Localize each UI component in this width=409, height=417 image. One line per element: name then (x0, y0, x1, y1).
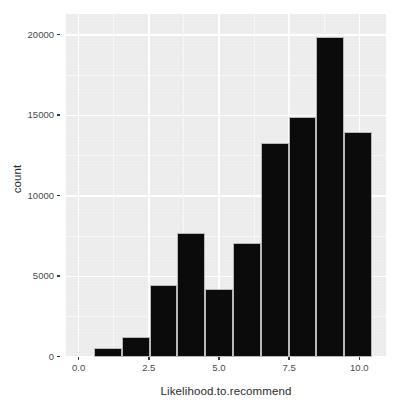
y-axis-title-text: count (11, 164, 23, 193)
x-tick-mark (218, 357, 219, 360)
histogram-bar (94, 348, 122, 357)
histogram-bar (289, 117, 317, 357)
grid-major-vertical (78, 14, 80, 357)
histogram-bar (150, 285, 178, 357)
histogram-bar (177, 233, 205, 357)
plot-panel (66, 14, 386, 357)
histogram-bar (205, 289, 233, 357)
y-tick-label: 20000 (8, 30, 54, 40)
histogram-bar (261, 143, 289, 357)
y-axis-title: count (8, 0, 26, 357)
x-tick-label: 2.5 (129, 362, 169, 373)
histogram-bar (316, 37, 344, 357)
y-tick-mark (57, 195, 60, 196)
y-tick: 5000 (0, 271, 60, 281)
y-tick-mark (57, 356, 60, 357)
x-tick-mark (78, 357, 79, 360)
grid-minor-vertical (113, 14, 114, 357)
y-tick-label: 5000 (8, 271, 54, 281)
y-tick: 20000 (0, 30, 60, 40)
y-tick: 0 (0, 352, 60, 362)
y-tick-label: 10000 (8, 191, 54, 201)
x-tick-mark (359, 357, 360, 360)
histogram-plot: count 05000100001500020000 0.02.55.07.51… (0, 0, 409, 417)
y-tick-label: 15000 (8, 110, 54, 120)
x-tick-mark (148, 357, 149, 360)
y-tick-label: 0 (8, 352, 54, 362)
x-tick-label: 0.0 (59, 362, 99, 373)
histogram-bar (122, 337, 150, 357)
y-tick: 10000 (0, 191, 60, 201)
x-tick-label: 7.5 (269, 362, 309, 373)
y-tick-mark (57, 275, 60, 276)
histogram-bar (344, 132, 372, 357)
histogram-bar (233, 243, 261, 357)
y-tick-mark (57, 34, 60, 35)
x-tick-label: 10.0 (339, 362, 379, 373)
y-tick-mark (57, 114, 60, 115)
y-tick: 15000 (0, 110, 60, 120)
x-tick-mark (288, 357, 289, 360)
x-axis-title: Likelihood.to.recommend (66, 385, 386, 397)
x-tick-label: 5.0 (199, 362, 239, 373)
